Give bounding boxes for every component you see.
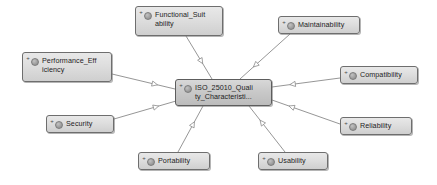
class-node-label: Performance_Efficiency <box>42 55 108 75</box>
class-node-label-line2: iciency <box>42 65 108 74</box>
node-icon-group: + <box>178 83 195 96</box>
node-icon-group: + <box>49 119 66 132</box>
generalization-edge[interactable] <box>114 101 176 119</box>
class-node-security[interactable]: +Security <box>46 115 114 133</box>
generalization-arrowhead-icon <box>198 58 203 64</box>
class-node-performance-efficiency[interactable]: +Performance_Efficiency <box>22 52 112 82</box>
expand-plus-icon[interactable]: + <box>343 69 349 75</box>
class-circle-icon <box>55 121 63 129</box>
generalization-edge[interactable] <box>178 106 203 152</box>
generalization-edge[interactable] <box>272 100 340 124</box>
node-icon-group: + <box>141 156 158 169</box>
class-node-label-line1: Performance_Eff <box>42 56 108 65</box>
class-circle-icon <box>349 72 357 80</box>
class-node-usability[interactable]: +Usability <box>258 152 328 170</box>
node-icon-group: + <box>261 156 278 169</box>
generalization-edge[interactable] <box>112 74 175 89</box>
class-node-label: Portability <box>158 155 206 165</box>
class-circle-icon <box>267 158 275 166</box>
class-circle-icon <box>147 158 155 166</box>
class-node-label: Security <box>66 118 110 128</box>
node-icon-group: + <box>281 20 298 33</box>
expand-plus-icon[interactable]: + <box>138 9 144 15</box>
node-icon-group: + <box>138 10 155 23</box>
node-icon-group: + <box>343 70 360 83</box>
class-circle-icon <box>349 123 357 131</box>
expand-plus-icon[interactable]: + <box>25 55 31 61</box>
generalization-arrowhead-icon <box>289 105 295 110</box>
class-circle-icon <box>184 85 192 93</box>
class-node-label: Compatibility <box>360 69 414 79</box>
expand-plus-icon[interactable]: + <box>343 120 349 126</box>
generalization-edge[interactable] <box>240 34 290 79</box>
class-node-maintainability[interactable]: +Maintainability <box>278 16 360 34</box>
class-circle-icon <box>31 58 39 66</box>
generalization-arrowhead-icon <box>189 122 194 128</box>
expand-plus-icon[interactable]: + <box>281 19 287 25</box>
class-node-label-line1: ISO_25010_Quali <box>195 83 268 92</box>
class-node-label: Usability <box>278 155 324 165</box>
expand-plus-icon[interactable]: + <box>261 155 267 161</box>
generalization-arrowhead-icon <box>153 105 159 110</box>
class-node-label: ISO_25010_Quality_Characteristi... <box>195 82 268 102</box>
class-circle-icon <box>144 12 152 20</box>
node-icon-group: + <box>343 121 360 134</box>
class-node-reliability[interactable]: +Reliability <box>340 117 412 135</box>
class-node-iso-25010-quality-characteristics[interactable]: +ISO_25010_Quality_Characteristi... <box>175 79 272 106</box>
class-node-label-line1: Functional_Suit <box>155 10 219 19</box>
expand-plus-icon[interactable]: + <box>49 118 55 124</box>
class-circle-icon <box>287 22 295 30</box>
class-node-label: Functional_Suitability <box>155 9 219 29</box>
generalization-arrowhead-icon <box>152 81 158 86</box>
class-node-label: Maintainability <box>298 19 356 29</box>
class-node-label-line2: ty_Characteristi... <box>195 92 268 101</box>
node-icon-group: + <box>25 56 42 69</box>
class-node-portability[interactable]: +Portability <box>138 152 210 170</box>
expand-plus-icon[interactable]: + <box>178 82 184 88</box>
uml-class-diagram: +ISO_25010_Quality_Characteristi...+Func… <box>0 0 437 185</box>
class-node-label: Reliability <box>360 120 408 130</box>
class-node-functional-suitability[interactable]: +Functional_Suitability <box>135 6 223 36</box>
generalization-edge[interactable] <box>249 106 285 152</box>
generalization-edge[interactable] <box>272 78 340 87</box>
generalization-arrowhead-icon <box>290 81 296 86</box>
class-node-compatibility[interactable]: +Compatibility <box>340 66 418 84</box>
expand-plus-icon[interactable]: + <box>141 155 147 161</box>
class-node-label-line2: ability <box>155 19 219 28</box>
generalization-edge[interactable] <box>186 36 212 79</box>
generalization-arrowhead-icon <box>260 120 265 126</box>
